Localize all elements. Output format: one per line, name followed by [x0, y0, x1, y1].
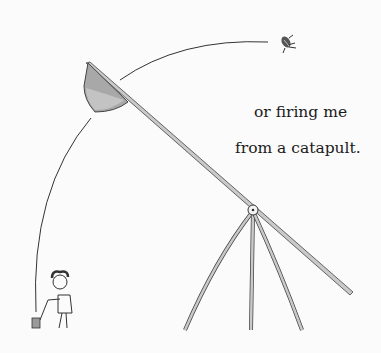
- flying-bug: [280, 35, 296, 53]
- catapult-illustration: [0, 0, 381, 353]
- illustration-page: or firing me from a catapult.: [0, 0, 381, 353]
- trajectory-arc-upper: [120, 42, 268, 80]
- caption-line-2: from a catapult.: [235, 139, 361, 157]
- pail: [32, 318, 40, 328]
- caption-line-1: or firing me: [254, 103, 347, 121]
- tripod-leg-left: [185, 211, 253, 330]
- child-figure: [32, 272, 72, 328]
